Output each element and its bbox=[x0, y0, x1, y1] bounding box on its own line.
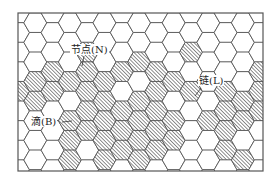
hex-cell bbox=[93, 170, 116, 186]
hex-cell bbox=[162, 0, 185, 13]
hex-cell bbox=[197, 0, 220, 13]
hex-cell bbox=[110, 179, 133, 186]
hex-grid-diagram bbox=[0, 0, 279, 186]
hex-cell bbox=[249, 0, 272, 3]
hex-cell bbox=[0, 150, 12, 170]
hex-cell bbox=[7, 0, 30, 3]
hex-cell bbox=[266, 150, 279, 170]
drop-label: 滴(B) bbox=[30, 116, 57, 127]
hex-cell bbox=[214, 0, 237, 3]
hex-cell bbox=[41, 0, 64, 3]
hex-cell bbox=[0, 0, 12, 13]
hex-cell bbox=[266, 52, 279, 72]
hex-cell bbox=[0, 32, 12, 52]
hex-cell bbox=[76, 179, 99, 186]
hex-cell bbox=[0, 130, 12, 150]
hex-cell bbox=[41, 179, 64, 186]
hex-cell bbox=[0, 91, 12, 111]
hex-cell bbox=[180, 0, 203, 3]
hex-cell bbox=[266, 32, 279, 52]
hex-cell bbox=[58, 0, 81, 13]
hex-cell bbox=[0, 111, 12, 131]
hex-cell bbox=[58, 170, 81, 186]
hex-cell bbox=[266, 0, 279, 13]
hatched-hex-cell bbox=[266, 91, 279, 111]
hex-cell bbox=[249, 179, 272, 186]
hex-cell bbox=[266, 130, 279, 150]
link-label: 链(L) bbox=[198, 75, 224, 86]
hex-cell bbox=[76, 0, 99, 3]
hex-cell bbox=[0, 72, 12, 92]
hex-cell bbox=[0, 52, 12, 72]
hex-cell bbox=[231, 0, 254, 13]
hex-cell bbox=[231, 170, 254, 186]
hex-cell bbox=[266, 111, 279, 131]
node-label: 节点(N) bbox=[70, 44, 109, 55]
hex-cell bbox=[24, 0, 47, 13]
hex-cell bbox=[214, 179, 237, 186]
hex-cells bbox=[0, 0, 279, 186]
hex-cell bbox=[266, 170, 279, 186]
hatched-hex-cell bbox=[266, 72, 279, 92]
hex-cell bbox=[266, 13, 279, 33]
hex-cell bbox=[145, 0, 168, 3]
hex-cell bbox=[0, 13, 12, 33]
hex-cell bbox=[93, 0, 116, 13]
hex-cell bbox=[7, 179, 30, 186]
hex-cell bbox=[197, 170, 220, 186]
hex-cell bbox=[0, 170, 12, 186]
hex-cell bbox=[180, 179, 203, 186]
hex-cell bbox=[162, 170, 185, 186]
hex-cell bbox=[128, 170, 151, 186]
hex-cell bbox=[24, 170, 47, 186]
hex-cell bbox=[128, 0, 151, 13]
hex-cell bbox=[145, 179, 168, 186]
hex-cell bbox=[110, 0, 133, 3]
